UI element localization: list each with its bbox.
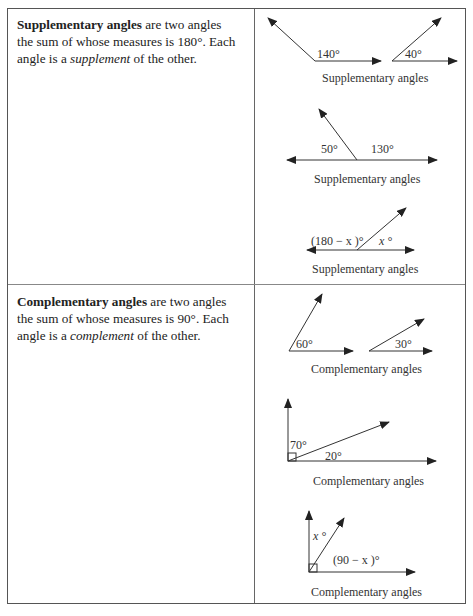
- adjacent-complementary-70-20-diagram: [288, 399, 436, 461]
- linear-pair-50-130-diagram: [287, 109, 437, 160]
- label-180-minus-x: (180 − x )°: [311, 234, 364, 248]
- label-140: 140°: [317, 47, 340, 61]
- caption-supp-2: Supplementary angles: [314, 172, 421, 186]
- caption-supp-3: Supplementary angles: [312, 262, 419, 276]
- label-60: 60°: [296, 337, 313, 351]
- label-40: 40°: [405, 47, 422, 61]
- caption-comp-3: Complementary angles: [311, 585, 422, 599]
- caption-comp-1: Complementary angles: [311, 362, 422, 376]
- caption-comp-2: Complementary angles: [313, 474, 424, 488]
- label-x-comp: x °: [312, 529, 326, 543]
- label-x-supp: x °: [378, 234, 392, 248]
- label-130: 130°: [371, 142, 394, 156]
- angle-40-diagram: [392, 18, 457, 61]
- label-20: 20°: [325, 449, 342, 463]
- label-50: 50°: [321, 142, 338, 156]
- label-30: 30°: [395, 337, 412, 351]
- caption-supp-1: Supplementary angles: [322, 71, 429, 85]
- label-70: 70°: [290, 438, 307, 452]
- label-90-minus-x: (90 − x )°: [333, 553, 380, 567]
- angle-diagrams: 140° 40° Supplementary angles 50° 130° S…: [0, 0, 473, 616]
